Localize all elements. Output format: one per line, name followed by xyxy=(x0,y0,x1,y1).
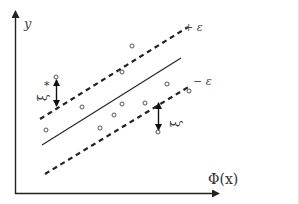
slack-upper-superscript: * xyxy=(44,79,50,92)
data-point xyxy=(187,89,191,93)
upper-epsilon-label: + ε xyxy=(184,21,203,34)
slack-lower-label: ξ xyxy=(169,120,183,127)
data-point xyxy=(112,113,116,117)
svr-epsilon-tube-diagram: y Φ(x) + ε − ε ξ * ξ xyxy=(0,0,299,204)
right-border xyxy=(298,0,299,204)
data-point xyxy=(156,130,160,134)
lower-epsilon-label: − ε xyxy=(193,75,212,88)
data-point xyxy=(120,70,124,74)
data-point xyxy=(143,101,147,105)
data-point xyxy=(44,128,48,132)
data-point xyxy=(120,102,124,106)
data-point xyxy=(98,126,102,130)
data-point xyxy=(165,82,169,86)
slack-upper-label: ξ xyxy=(36,94,50,101)
data-point xyxy=(80,105,84,109)
upper-epsilon-boundary xyxy=(40,27,188,119)
data-point xyxy=(130,44,134,48)
data-point xyxy=(54,75,58,79)
y-axis-label: y xyxy=(23,16,32,31)
x-axis-label: Φ(x) xyxy=(208,171,238,187)
